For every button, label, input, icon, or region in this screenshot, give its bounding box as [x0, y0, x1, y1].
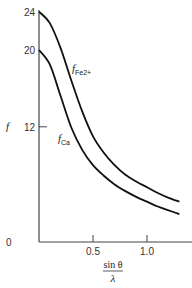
- x-label-denominator: λ: [110, 272, 116, 284]
- x-tick-label: 0.5: [86, 246, 100, 257]
- y-ticks: 122024: [24, 7, 47, 133]
- y-tick-label: 24: [24, 7, 36, 18]
- y-tick-label: 12: [24, 122, 36, 133]
- x-ticks: 0.51.0: [86, 235, 154, 257]
- y-axis-label: f: [6, 120, 11, 132]
- origin-label: 0: [6, 237, 12, 248]
- x-label-numerator: sin θ: [104, 259, 123, 270]
- x-axis-label: sin θ λ: [103, 259, 123, 284]
- curves: [39, 12, 179, 215]
- x-tick-label: 1.0: [140, 246, 154, 257]
- curve-label-ca: fCa: [58, 132, 70, 146]
- chart-svg: 122024 0.51.0 fFe2+fCa f 0 sin θ λ: [0, 0, 192, 288]
- curve-label-fe2plus: fFe2+: [72, 62, 91, 76]
- curve-fe2plus: [39, 12, 179, 202]
- y-tick-label: 20: [24, 45, 36, 56]
